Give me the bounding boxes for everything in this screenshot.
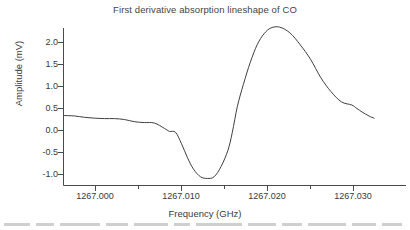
artifact-segment xyxy=(308,223,346,226)
artifact-segment xyxy=(36,223,54,226)
artifact-segment xyxy=(382,223,402,226)
axes-group xyxy=(58,28,406,191)
chart-figure: First derivative absorption lineshape of… xyxy=(0,0,410,230)
data-series-line xyxy=(65,27,375,179)
artifact-segment xyxy=(248,223,276,226)
artifact-segment xyxy=(60,223,100,226)
artifact-segment xyxy=(4,223,30,226)
plot-canvas xyxy=(0,0,410,230)
artifact-segment xyxy=(196,223,242,226)
artifact-segment xyxy=(106,223,128,226)
artifact-segment xyxy=(174,223,190,226)
artifact-segment xyxy=(352,223,376,226)
page-scan-artifact xyxy=(0,222,410,228)
artifact-segment xyxy=(282,223,302,226)
artifact-segment xyxy=(134,223,168,226)
